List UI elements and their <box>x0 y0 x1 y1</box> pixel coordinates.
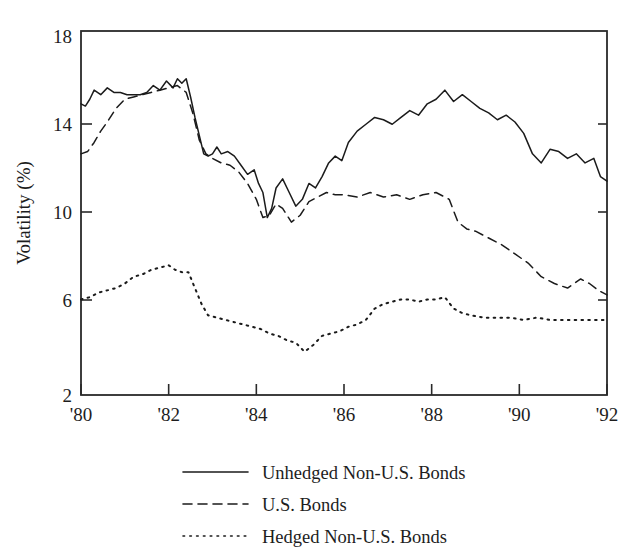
x-tick-label-82: '82 <box>157 404 179 425</box>
volatility-chart-figure: 18 14 10 6 2 Volatility (%) '80 '82 '84 … <box>0 0 637 559</box>
legend-label-unhedged-non-us-bonds: Unhedged Non-U.S. Bonds <box>262 463 466 483</box>
legend-label-hedged-non-us-bonds: Hedged Non-U.S. Bonds <box>262 527 447 547</box>
x-tick-label-88: '88 <box>420 404 442 425</box>
y-tick-label-6: 6 <box>63 290 73 311</box>
y-tick-label-10: 10 <box>53 202 72 223</box>
legend-label-us-bonds: U.S. Bonds <box>262 495 347 515</box>
y-tick-label-18: 18 <box>53 26 72 47</box>
y-axis-title: Volatility (%) <box>13 161 35 265</box>
y-tick-label-14: 14 <box>53 114 73 135</box>
x-tick-label-86: '86 <box>333 404 355 425</box>
x-tick-label-84: '84 <box>245 404 268 425</box>
x-tick-label-90: '90 <box>508 404 530 425</box>
x-tick-label-80: '80 <box>70 404 92 425</box>
y-tick-label-2: 2 <box>63 385 73 406</box>
x-tick-label-92: '92 <box>596 404 618 425</box>
chart-svg: 18 14 10 6 2 Volatility (%) '80 '82 '84 … <box>0 0 637 559</box>
